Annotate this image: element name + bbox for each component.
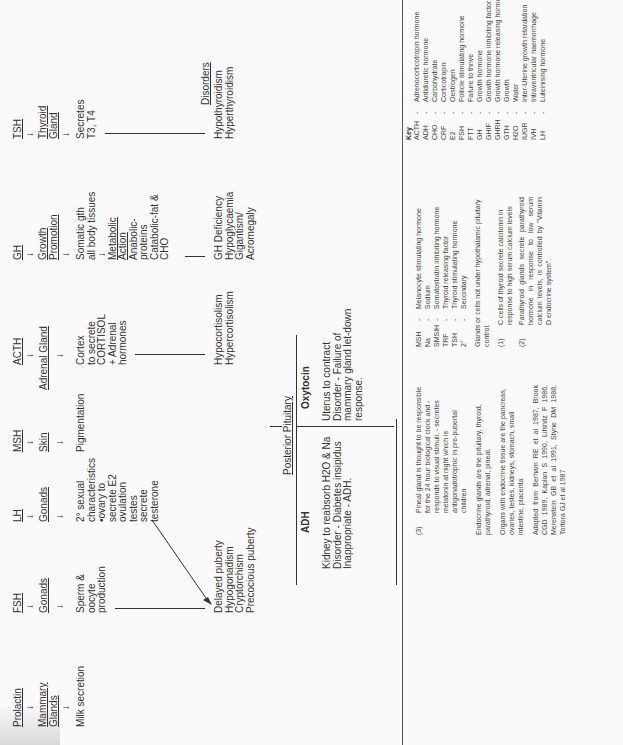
arrow-down-icon: ↓ [60,132,71,137]
adh-title: ADH [300,511,311,533]
hormone-gh: GH [12,245,23,260]
key-item: FTT-Failure to thrive [466,0,475,140]
target-thyroid-gland: Thyroid Gland [38,105,59,139]
arrow-down-icon: ↓ [24,604,35,609]
hormone-tsh: TSH [12,119,23,139]
endocrine-organs-note: Organs with endocrine tissue are the pan… [498,385,525,535]
target-gonads-lh: Gonads [38,487,49,522]
flow-line [185,256,205,257]
note-1: (1)C cells of thyroid secrete calcitonin… [496,197,514,347]
key-item: ADH-Antidiuretic hormone [421,0,430,140]
arrow-down-icon: ↓ [54,604,65,609]
arrow-down-icon: ↓ [24,705,35,710]
hormone-fsh: FSH [12,593,23,613]
hormone-acth: ACTH [12,338,23,365]
arrow-down-icon: ↓ [24,440,35,445]
posterior-column-divider [296,426,394,427]
rotated-document-page: TSH GH ACTH MSH LH FSH Prolactin ↓ ↓ ↓ ↓… [0,0,623,745]
target-mammary-glands: Mammary Glands [38,681,59,727]
note-2: (2)Parathyroid glands secrete parathyroi… [517,197,553,347]
disorders-acth: Hypocortisolism Hypercortisolism [214,291,235,365]
key-item: FSH-Follicle stimulating hormone [457,0,466,140]
key-item: IVH-Intraventricular haemorrhage [529,0,538,140]
arrow-down-icon: ↓ [54,514,65,519]
key-item: TRF-Thyroid releasing factor [441,197,450,347]
oxytocin-description: Uterus to contract Disorder - Failure of… [322,309,364,421]
key-item: CHO-Carbohydrate [430,0,439,140]
key-item: GTH-Growth [502,0,511,140]
key-item: MSH-Melanocyte stimulating hormone [414,197,423,347]
target-skin: Skin [38,433,49,452]
adh-description: Kidney to reabsorb H2O & Na Disorder - D… [322,437,354,569]
glands-note: Glands or cells not under hypothalamic p… [473,197,491,347]
arrow-down-icon: ↓ [24,132,35,137]
hormone-lh: LH [12,509,23,522]
key-item: ACTH-Adrenocorticotropin hormone [412,0,421,140]
key-section: Key ACTH-Adrenocorticotropin hormone ADH… [405,0,547,140]
effect-gh: Somatic gth all body tissues ↓ Metabolic… [76,192,171,260]
key-title: Key [405,0,412,140]
effect-tsh: Secretes T3, T4 [76,100,97,139]
target-gonads-fsh: Gonads [38,578,49,613]
arrow-down-icon: ↓ [60,705,71,710]
key-item: TSH-Thyroid stimulating hormone [450,197,459,347]
target-adrenal-gland: Adrenal Gland [38,326,49,390]
hormone-prolactin: Prolactin [12,688,23,727]
flow-line [105,133,205,134]
disorders-fsh-lh: Delayed puberty Hypogonadism Cryptorchis… [214,527,256,613]
key-item: Na-Sodium [423,197,432,347]
key-divider [402,0,403,745]
flow-line [135,354,205,355]
effect-lh: 2° sexual characteristics •ovary to secr… [76,458,160,522]
key-item: GHIF-Growth hormone inhibiting factor [484,0,493,140]
key-item: GHRH-Growth hormone releasing hormone [493,0,502,140]
connector-line [270,426,282,427]
posterior-divider [296,335,297,585]
flow-line [115,608,205,609]
hormone-msh: MSH [12,430,23,452]
key-item: LH-Luteinising hormone [538,0,547,140]
posterior-bottom-line [396,419,397,585]
arrow-down-icon: ↓ [24,514,35,519]
key-item: E2-Oestrogen [448,0,457,140]
disorders-label: Disorders [200,62,211,105]
target-growth-promotion: Growth Promotion [38,210,59,260]
key-section-3: (3)Pineal gland is thought to be respons… [414,385,567,535]
references: Adapted from Berham RE et al 1987, Brook… [531,385,567,535]
endocrine-glands-note: Endocrine glands are the pituitary, thyr… [474,385,492,535]
effect-msh: Pigmentation [76,394,87,452]
key-item: SMSIH-Somatostratin inhibiting hormone [432,197,441,347]
key-item: CRF-Corticotropin [439,0,448,140]
arrow-down-icon: ↓ [97,192,108,260]
arrow-down-icon: ↓ [54,353,65,358]
arrow-down-icon: ↓ [24,252,35,257]
diagonal-arrow-lh [150,515,215,605]
disorders-tsh: Hypothyroidism Hyperthyroidism [214,67,235,139]
arrow-down-icon: ↓ [54,440,65,445]
key-section-2: MSH-Melanocyte stimulating hormone Na-So… [414,197,553,347]
effect-fsh: Sperm & oocyte production [76,566,108,613]
note-3: (3)Pineal gland is thought to be respons… [414,385,468,535]
effect-acth: Cortex to secrete CORTISOL + Adrenal hor… [76,314,129,365]
posterior-pituitary-title: Posterior Pituitary [282,396,293,475]
arrow-down-icon: ↓ [24,353,35,358]
disorders-gh: GH Deficiency Hypoglycaemia Gigantism/ A… [214,192,256,260]
key-item: 2°-Secondary [459,197,468,347]
effect-prolactin: Milk secretion [76,666,87,727]
key-item: GH-Growth hormone [475,0,484,140]
key-item: IUGR-Inter-Uterine growth retardation [520,0,529,140]
key-item: H2O-Water [511,0,520,140]
oxytocin-title: Oxytocin [300,366,311,409]
arrow-down-icon: ↓ [60,252,71,257]
